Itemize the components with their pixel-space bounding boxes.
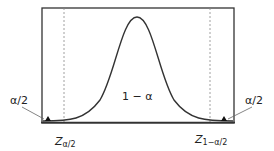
right-tail-pointer (228, 107, 252, 119)
right-tail-marker (221, 116, 227, 121)
right-tail-label: α/2 (245, 94, 263, 107)
normal-curve (43, 17, 233, 121)
left-tail-label: α/2 (10, 94, 28, 107)
left-tail-pointer (22, 107, 44, 119)
left-critical-label: Zα/2 (54, 135, 76, 149)
plot-frame (42, 8, 234, 123)
center-area-label: 1 − α (122, 90, 152, 103)
right-critical-label: Z1−α/2 (194, 133, 227, 147)
left-tail-marker (45, 116, 51, 121)
normal-distribution-diagram: α/2 α/2 1 − α Zα/2 Z1−α/2 (0, 0, 274, 151)
